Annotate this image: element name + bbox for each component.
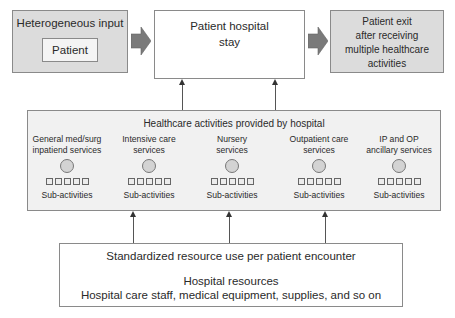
sub-activities-label: Sub-activities <box>109 190 189 200</box>
activity-circle-icon <box>312 159 326 173</box>
activity-column-intensive-care: Intensive careservices Sub-activities <box>109 111 189 200</box>
connector-line <box>325 216 326 243</box>
sub-activity-squares <box>279 178 359 185</box>
sub-activities-label: Sub-activities <box>192 190 272 200</box>
hospital-resources-box: Standardized resource use per patient en… <box>59 243 403 307</box>
activity-name-line-1: IP and OP <box>379 134 419 144</box>
stay-line-1: Patient hospital <box>155 19 304 33</box>
activity-name-line-2: services <box>133 145 165 155</box>
sub-activities-label: Sub-activities <box>27 190 107 200</box>
activity-name: Nurseryservices <box>192 134 272 155</box>
connector-line <box>182 84 183 110</box>
activity-name-line-1: Outpatient care <box>290 134 349 144</box>
activity-column-nursery: Nurseryservices Sub-activities <box>192 111 272 200</box>
connector-line <box>275 84 276 110</box>
activity-column-ip-op-ancillary: IP and OPancillary services Sub-activiti… <box>359 111 439 200</box>
arrowhead-icon <box>226 211 232 217</box>
exit-line-2: after receiving <box>331 30 443 42</box>
heterogeneous-input-box: Heterogeneous input Patient <box>12 10 128 73</box>
patient-exit-box: Patient exit after receiving multiple he… <box>330 10 444 73</box>
activity-name-line-2: services <box>303 145 335 155</box>
resources-line-2: Hospital resources <box>60 274 402 288</box>
arrowhead-icon <box>272 79 278 85</box>
activity-name: Outpatient careservices <box>279 134 359 155</box>
activity-circle-icon <box>225 159 239 173</box>
sub-activity-squares <box>192 178 272 185</box>
sub-activities-label: Sub-activities <box>359 190 439 200</box>
activity-name: Intensive careservices <box>109 134 189 155</box>
activity-name-line-2: services <box>216 145 248 155</box>
activity-name: General med/surginpatiend services <box>27 134 107 155</box>
patient-hospital-stay-box: Patient hospital stay <box>154 10 305 79</box>
activity-column-outpatient-care: Outpatient careservices Sub-activities <box>279 111 359 200</box>
patient-label: Patient <box>43 43 97 57</box>
resources-line-1: Standardized resource use per patient en… <box>60 249 402 263</box>
arrowhead-icon <box>179 79 185 85</box>
exit-line-1: Patient exit <box>331 16 443 28</box>
healthcare-activities-panel: Healthcare activities provided by hospit… <box>27 110 441 211</box>
connector-line <box>133 216 134 243</box>
connector-line <box>229 216 230 243</box>
resources-line-3: Hospital care staff, medical equipment, … <box>60 288 402 302</box>
activity-name: IP and OPancillary services <box>359 134 439 155</box>
activity-name-line-2: inpatiend services <box>33 145 102 155</box>
activity-column-general-med-surg: General med/surginpatiend services Sub-a… <box>27 111 107 200</box>
arrowhead-icon <box>322 211 328 217</box>
exit-line-3: multiple healthcare <box>331 44 443 56</box>
exit-line-4: activities <box>331 58 443 70</box>
patient-box: Patient <box>42 38 98 62</box>
arrowhead-icon <box>130 211 136 217</box>
sub-activity-squares <box>109 178 189 185</box>
flow-arrow-icon <box>308 27 328 55</box>
sub-activity-squares <box>359 178 439 185</box>
stay-line-2: stay <box>155 35 304 49</box>
activity-name-line-1: Nursery <box>217 134 247 144</box>
activity-name-line-1: Intensive care <box>122 134 176 144</box>
activity-circle-icon <box>392 159 406 173</box>
heterogeneous-input-title: Heterogeneous input <box>13 16 127 30</box>
sub-activities-label: Sub-activities <box>279 190 359 200</box>
activity-name-line-1: General med/surg <box>33 134 102 144</box>
activity-name-line-2: ancillary services <box>366 145 431 155</box>
sub-activity-squares <box>27 178 107 185</box>
activity-circle-icon <box>142 159 156 173</box>
activity-circle-icon <box>60 159 74 173</box>
flow-arrow-icon <box>131 27 151 55</box>
